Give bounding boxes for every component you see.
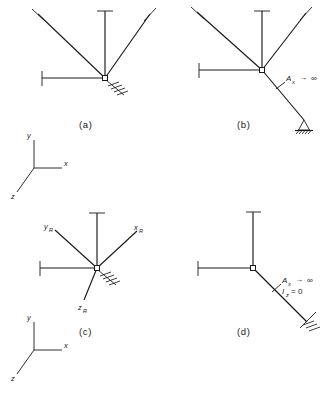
label-Ax-infinity: A x → ∞ [281,275,313,287]
triad-x-label: x [63,159,68,168]
panel-a-members [38,11,150,78]
triad-z-label: z [10,374,15,383]
panel-d: A x → ∞ I z = 0 (d) [198,212,320,337]
figure-canvas: (a) A x → [0,0,330,395]
label-xR: x R [133,223,143,234]
label-Iz-symbol: I [282,287,285,296]
hatch-tick-2 [306,324,317,328]
label-Ax-symbol: A [285,74,291,83]
label-zR: z R [77,303,87,314]
triad-z-label: z [10,192,15,201]
label-zR-symbol: z [77,303,82,312]
panel-a-end-caps [32,8,156,86]
end-cap-upper-left [191,7,204,19]
triad-x-label: x [63,341,68,350]
fixed-support-hatch [98,270,120,285]
label-Iz-subscript: z [285,292,289,298]
panel-a: (a) [32,8,156,130]
label-yR-subscript: R [49,227,53,233]
figure-root: (a) A x → [0,0,330,395]
label-Ax-subscript: x [291,79,295,85]
hatch-tick-4 [117,91,128,95]
label-Ax-relation: → [295,275,303,284]
fixed-support-hatch [106,80,128,95]
label-Ax-value: ∞ [307,276,313,285]
member-upper-left [197,12,262,70]
lower-axis-triad: y x z [10,313,68,383]
joint-node [95,266,100,271]
end-cap-upper-left [32,9,45,21]
member-upper-right [105,14,150,78]
end-cap-upper-right [144,8,156,21]
caption-b: (b) [237,119,251,130]
joint-node [260,68,265,73]
panel-b: A x → ∞ (b) [191,7,317,134]
label-xR-subscript: R [139,228,143,234]
member-lower-right [262,70,304,120]
triad-y-label: y [26,131,32,140]
caption-c: (c) [79,326,92,337]
label-xR-symbol: x [133,223,138,232]
label-Ax-value: ∞ [311,74,317,83]
pin-support [295,120,313,134]
label-Ax-symbol: A [281,276,287,285]
triad-y-label: y [26,313,32,322]
hatch-tick-3 [309,327,320,331]
panel-b-members [197,11,306,120]
fixed-support-hatch [300,312,320,331]
label-Iz-relation: = [291,287,296,296]
pin-triangle [299,120,310,130]
triad-z-axis [17,350,34,374]
label-yR: y R [43,222,53,233]
label-Ax-relation: → [299,73,307,82]
label-Iz-value: 0 [298,287,303,296]
upper-axis-triad: y x z [10,131,68,201]
label-Ax-infinity: A x → ∞ [285,73,317,85]
caption-d: (d) [237,326,251,337]
panel-b-end-caps [191,7,312,78]
joint-node [103,76,108,81]
member-upper-left [55,230,97,268]
triad-z-axis [17,168,34,192]
label-zR-subscript: R [83,308,87,314]
joint-node [251,266,256,271]
member-upper-right [262,13,306,70]
panel-c-members [40,213,137,300]
label-Ax-subscript: x [287,281,291,287]
end-cap-upper-right [300,7,312,20]
caption-a: (a) [79,119,93,130]
member-label-leader [276,82,285,89]
member-lower-left [84,268,97,300]
panel-c: y R x R z R (c) [40,213,143,337]
member-upper-right [97,231,137,268]
member-upper-left [38,14,105,78]
hatch-tick-4 [109,281,120,285]
label-Iz-zero: I z = 0 [282,287,303,298]
